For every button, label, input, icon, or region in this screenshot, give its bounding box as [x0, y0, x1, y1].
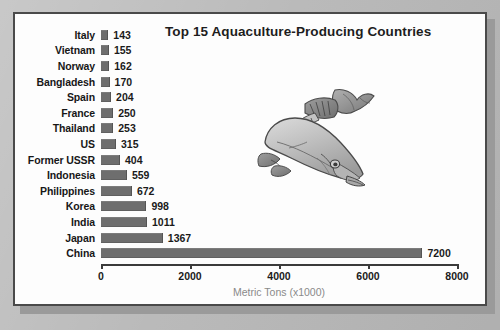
bar-container: 1367 — [101, 230, 485, 246]
bar-container: 672 — [101, 183, 485, 199]
x-axis-tick-label: 4000 — [267, 270, 290, 282]
bar-rows: Italy143Vietnam155Norway162Bangladesh170… — [15, 27, 485, 261]
bar-row: Norway162 — [15, 58, 485, 74]
bar — [101, 186, 132, 196]
bar-container: 204 — [101, 89, 485, 105]
bar-value-label: 1367 — [168, 232, 191, 244]
category-label: US — [15, 138, 95, 150]
bar-container: 998 — [101, 199, 485, 215]
bar-container: 143 — [101, 27, 485, 43]
category-label: Vietnam — [15, 44, 95, 56]
bar-row: Korea998 — [15, 199, 485, 215]
bar-container: 315 — [101, 136, 485, 152]
x-axis-tick — [457, 264, 459, 269]
x-axis-tick — [279, 264, 281, 269]
bar — [101, 155, 120, 165]
bar-row: Japan1367 — [15, 230, 485, 246]
bar-value-label: 7200 — [427, 247, 450, 259]
bar — [101, 30, 108, 40]
category-label: India — [15, 216, 95, 228]
bar-row: US315 — [15, 136, 485, 152]
bar-value-label: 250 — [118, 107, 136, 119]
bar — [101, 217, 147, 227]
chart-plot-area: Top 15 Aquaculture-Producing Countries — [15, 14, 485, 304]
x-axis-tick-label: 2000 — [178, 270, 201, 282]
x-axis-tick-label: 0 — [98, 270, 104, 282]
category-label: Korea — [15, 200, 95, 212]
bar-row: Thailand253 — [15, 121, 485, 137]
bar-row: China7200 — [15, 245, 485, 261]
bar-container: 404 — [101, 152, 485, 168]
category-label: Norway — [15, 60, 95, 72]
bar-container: 7200 — [101, 245, 485, 261]
category-label: France — [15, 107, 95, 119]
bar-container: 1011 — [101, 214, 485, 230]
bar — [101, 248, 422, 258]
bar-value-label: 404 — [125, 154, 143, 166]
bar-value-label: 253 — [118, 122, 136, 134]
category-label: Philippines — [15, 185, 95, 197]
bar-row: Former USSR404 — [15, 152, 485, 168]
bar-value-label: 315 — [121, 138, 139, 150]
bar-container: 250 — [101, 105, 485, 121]
category-label: Former USSR — [15, 154, 95, 166]
bar-row: Bangladesh170 — [15, 74, 485, 90]
x-axis-tick-label: 6000 — [356, 270, 379, 282]
bar-row: Philippines672 — [15, 183, 485, 199]
bar-row: France250 — [15, 105, 485, 121]
category-label: China — [15, 247, 95, 259]
bar-row: Italy143 — [15, 27, 485, 43]
bar — [101, 139, 116, 149]
bar-container: 559 — [101, 167, 485, 183]
bar-value-label: 204 — [116, 91, 134, 103]
bar-row: Vietnam155 — [15, 43, 485, 59]
x-axis-tick — [101, 264, 103, 269]
bar-row: Spain204 — [15, 89, 485, 105]
bar-container: 162 — [101, 58, 485, 74]
x-axis-tick — [368, 264, 370, 269]
bar — [101, 108, 113, 118]
bar-row: Indonesia559 — [15, 167, 485, 183]
chart-panel: Top 15 Aquaculture-Producing Countries — [13, 12, 487, 306]
x-axis-title: Metric Tons (x1000) — [101, 286, 457, 298]
bar-value-label: 143 — [113, 29, 131, 41]
category-label: Indonesia — [15, 169, 95, 181]
bar — [101, 61, 109, 71]
x-axis-tick-label: 8000 — [445, 270, 468, 282]
bar-value-label: 559 — [132, 169, 150, 181]
category-label: Japan — [15, 232, 95, 244]
bar-row: India1011 — [15, 214, 485, 230]
x-axis-tick — [190, 264, 192, 269]
bar — [101, 123, 113, 133]
category-label: Thailand — [15, 122, 95, 134]
bar-value-label: 170 — [115, 76, 133, 88]
bar-value-label: 672 — [137, 185, 155, 197]
bar-container: 170 — [101, 74, 485, 90]
bar-value-label: 162 — [114, 60, 132, 72]
bar — [101, 92, 111, 102]
screenshot-canvas: Top 15 Aquaculture-Producing Countries — [0, 0, 500, 330]
bar-value-label: 1011 — [152, 216, 175, 228]
category-label: Italy — [15, 29, 95, 41]
bar-value-label: 155 — [114, 44, 132, 56]
bar-value-label: 998 — [151, 200, 169, 212]
bar — [101, 77, 110, 87]
bar — [101, 45, 109, 55]
category-label: Bangladesh — [15, 76, 95, 88]
bar — [101, 201, 146, 211]
bar-container: 155 — [101, 43, 485, 59]
bar-container: 253 — [101, 121, 485, 137]
bar — [101, 233, 163, 243]
category-label: Spain — [15, 91, 95, 103]
bar — [101, 170, 127, 180]
